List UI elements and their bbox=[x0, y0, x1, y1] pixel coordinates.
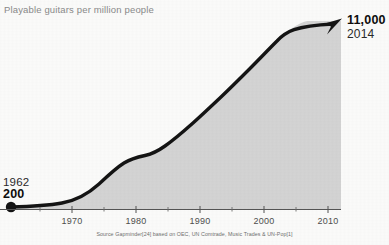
source-note: Source Gapminder[24] based on OEC, UN Co… bbox=[96, 231, 292, 237]
chart-plot bbox=[0, 0, 389, 245]
x-tick-label-1990: 1990 bbox=[189, 216, 210, 226]
start-point-marker bbox=[6, 202, 16, 212]
x-tick-label-2010: 2010 bbox=[317, 216, 338, 226]
annotation-end-year: 2014 bbox=[347, 28, 386, 41]
area-fill bbox=[11, 21, 341, 209]
x-tick-label-1980: 1980 bbox=[125, 216, 146, 226]
annotation-end-value: 11,000 bbox=[347, 14, 386, 28]
annotation-start: 1962 200 bbox=[3, 176, 29, 202]
x-tick-label-1970: 1970 bbox=[61, 216, 82, 226]
annotation-end: 11,000 2014 bbox=[347, 14, 386, 40]
annotation-start-value: 200 bbox=[3, 188, 29, 202]
chart-canvas: Playable guitars per million people bbox=[0, 0, 389, 245]
x-tick-label-2000: 2000 bbox=[253, 216, 274, 226]
